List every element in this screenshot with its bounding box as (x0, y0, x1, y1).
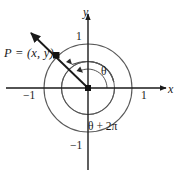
label-theta-plus-two-pi: θ + 2π (88, 121, 117, 133)
spiral-arrowhead (66, 59, 72, 65)
label-x-axis: x (168, 83, 173, 95)
label-x-tick-negative-one: −1 (23, 90, 35, 102)
label-y-tick-negative-one: −1 (70, 140, 82, 152)
label-theta-angle: θ (101, 66, 107, 78)
origin-point (85, 85, 91, 91)
unit-circle-figure: P = (x, y) y x 1 −1 1 −1 θ θ + 2π (0, 0, 183, 177)
label-y-tick-one: 1 (76, 31, 82, 43)
label-x-tick-one: 1 (141, 90, 147, 102)
label-y-axis: y (83, 6, 88, 18)
label-point-p: P = (x, y) (4, 47, 54, 60)
